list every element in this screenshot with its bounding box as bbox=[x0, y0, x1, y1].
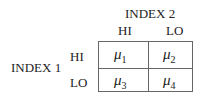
column-header-hi: HI bbox=[118, 24, 132, 38]
grid-divider-horizontal bbox=[99, 68, 192, 69]
row-header-hi: HI bbox=[70, 50, 84, 64]
grid-divider-vertical bbox=[148, 42, 149, 91]
column-header-lo: LO bbox=[166, 24, 183, 38]
cell-mu2: μ2 bbox=[163, 46, 176, 65]
mean-table: μ1 μ2 μ3 μ4 bbox=[98, 41, 193, 92]
row-header-lo: LO bbox=[70, 76, 87, 90]
cell-mu3: μ3 bbox=[114, 72, 127, 91]
cell-mu1: μ1 bbox=[114, 46, 127, 65]
cell-mu4: μ4 bbox=[163, 72, 176, 91]
index2-label: INDEX 2 bbox=[125, 7, 175, 21]
index1-label: INDEX 1 bbox=[11, 61, 61, 75]
